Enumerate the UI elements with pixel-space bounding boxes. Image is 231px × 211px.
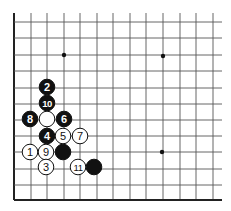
star-point	[160, 150, 164, 154]
move-number: 7	[77, 130, 83, 142]
move-number: 4	[44, 130, 51, 142]
move-number: 1	[27, 146, 33, 158]
move-number: 2	[44, 81, 50, 93]
star-point	[62, 53, 66, 57]
star-point	[161, 54, 165, 58]
black-stone	[86, 159, 102, 175]
move-number: 5	[60, 130, 66, 142]
black-stone	[55, 144, 71, 160]
move-number: 11	[74, 162, 83, 173]
move-number: 9	[43, 146, 49, 158]
move-number: 10	[42, 98, 52, 109]
white-stone	[39, 111, 55, 127]
go-board: 2108645719311	[0, 0, 231, 211]
move-number: 8	[27, 113, 33, 125]
move-number: 6	[61, 113, 67, 125]
move-number: 3	[43, 161, 49, 173]
